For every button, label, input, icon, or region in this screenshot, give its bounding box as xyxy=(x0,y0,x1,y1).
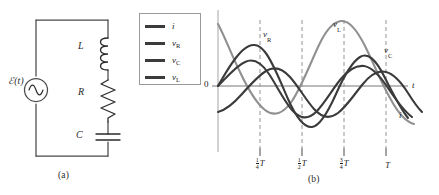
legend-swatch-vl xyxy=(145,76,165,79)
resistor-symbol xyxy=(101,80,115,122)
caption-b: (b) xyxy=(308,174,320,184)
tick-label-half-T: 1 2 T xyxy=(290,157,314,171)
tick-label-T: T xyxy=(378,160,396,170)
ac-source-symbol xyxy=(25,79,48,102)
legend-item-i: i xyxy=(145,19,199,33)
legend-item-vc: vC xyxy=(145,53,199,67)
figure-root: ℰ(t) L R C (a) i vR vC xyxy=(0,0,439,195)
curve-label-vC: vC xyxy=(384,45,392,57)
legend-box: i vR vC vL xyxy=(139,13,201,85)
inductor-label: L xyxy=(78,40,84,51)
inductor-symbol xyxy=(101,38,109,70)
capacitor-symbol xyxy=(96,134,120,140)
legend-swatch-i xyxy=(145,25,165,28)
legend-swatch-vr xyxy=(145,42,165,45)
legend-item-vr: vR xyxy=(145,36,199,50)
legend-swatch-vc xyxy=(145,59,165,62)
tick-label-three-quarter-T: 3 4 T xyxy=(332,157,356,171)
x-axis-label: t xyxy=(412,80,415,90)
source-label: ℰ(t) xyxy=(8,75,24,86)
capacitor-label: C xyxy=(76,129,83,140)
legend-label-vl: vL xyxy=(172,72,180,82)
circuit-diagram xyxy=(8,8,140,168)
legend-label-vr: vR xyxy=(172,38,180,48)
legend-label-i: i xyxy=(172,21,175,31)
curve-label-vL: vL xyxy=(333,19,341,31)
tick-label-quarter-T: 1 4 T xyxy=(248,157,272,171)
panel-b-graph: 0 t vR vL vC i 1 4 T 1 2 xyxy=(200,0,439,195)
caption-a: (a) xyxy=(58,170,69,180)
x-axis-ticks xyxy=(260,148,386,156)
waveform-plot xyxy=(200,0,439,195)
origin-label: 0 xyxy=(204,79,209,89)
panel-a-circuit: ℰ(t) L R C (a) xyxy=(0,0,140,195)
curve-label-i: i xyxy=(399,110,402,120)
legend-item-vl: vL xyxy=(145,70,199,84)
legend-label-vc: vC xyxy=(172,55,180,65)
resistor-label: R xyxy=(78,86,84,97)
curve-label-vR: vR xyxy=(263,29,271,41)
